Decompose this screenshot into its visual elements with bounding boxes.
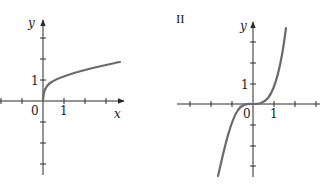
graph-cubic: II y 0 1 1: [176, 11, 320, 177]
x-tick-label-1: 1: [60, 104, 68, 118]
graph-sqrt: y x 0 1 1: [0, 16, 124, 175]
y-tick-label-1: 1: [31, 74, 39, 88]
y-axis-label: y: [239, 19, 247, 33]
y-tick-label-1: 1: [241, 78, 249, 92]
x-axis-label: x: [114, 107, 121, 121]
figure: y x 0 1 1 II y: [0, 0, 320, 184]
origin-label: 0: [243, 107, 251, 121]
x-tick-label-1: 1: [270, 107, 278, 121]
panel-label: II: [176, 11, 185, 26]
origin-label: 0: [31, 104, 39, 118]
cubic-curve: [218, 28, 286, 176]
sqrt-curve: [43, 62, 120, 101]
y-axis-label: y: [27, 16, 35, 30]
